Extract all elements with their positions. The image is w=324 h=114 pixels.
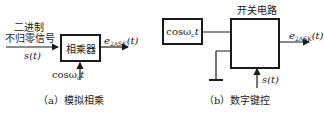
input-label-line1: 二进制 xyxy=(14,23,44,33)
carrier-block-label: cosωct xyxy=(166,26,198,38)
output-label-a: e2ASK(t) xyxy=(104,36,139,47)
output-label-b: e2ASK(t) xyxy=(289,31,324,42)
multiplier-block: 相乘器 xyxy=(60,34,101,62)
switch-circuit-block xyxy=(230,18,280,69)
carrier-label-a: cosωct xyxy=(52,70,84,81)
input-label-line2: 不归零信号 xyxy=(5,34,55,44)
caption-a: （a）模拟相乘 xyxy=(38,96,104,106)
carrier-block: cosωct xyxy=(162,18,203,45)
control-signal-label: s(t) xyxy=(262,75,279,85)
switch-title: 开关电路 xyxy=(237,6,277,16)
multiplier-label: 相乘器 xyxy=(66,41,96,56)
input-signal-label: s(t) xyxy=(24,51,41,61)
caption-b: （b）数字键控 xyxy=(204,96,270,106)
